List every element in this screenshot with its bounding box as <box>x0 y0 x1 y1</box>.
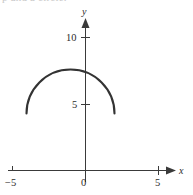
y-tick-label-10: 10 <box>66 32 77 43</box>
y-axis-arrow-icon <box>82 18 90 28</box>
y-axis-label: y <box>81 6 87 17</box>
x-tick-label-neg5: −5 <box>5 177 16 188</box>
semicircle-arc-curve <box>27 70 115 114</box>
figure-container: p and a circle. −5 0 5 10 5 x y <box>0 0 193 195</box>
x-axis-arrow-icon <box>166 167 176 175</box>
y-tick-label-5: 5 <box>72 99 77 110</box>
x-axis-label: x <box>178 165 184 176</box>
coordinate-plot: −5 0 5 10 5 x y <box>0 0 193 195</box>
x-tick-label-0: 0 <box>81 177 86 188</box>
x-tick-label-5: 5 <box>155 177 160 188</box>
